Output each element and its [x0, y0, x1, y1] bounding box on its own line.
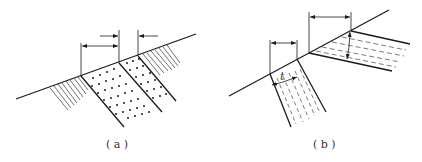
thickness-arrow-b2 [349, 32, 350, 47]
geology-outcrop-diagram: t ( a ) ( b ) [0, 0, 422, 162]
panel-a [16, 30, 196, 127]
panel-b: t [229, 10, 410, 127]
thickness-arrow-b1-right [283, 77, 297, 82]
stratum-b2-bottom [309, 53, 392, 71]
hatch-right-a [143, 45, 180, 75]
stratum-b2-top [351, 31, 410, 44]
stratum-boundary-a3 [138, 56, 176, 101]
hatch-left-a [50, 77, 88, 110]
stratum-boundary-a1 [81, 76, 124, 127]
dot-fill-a1 [91, 68, 150, 119]
thickness-label-b1: t [280, 70, 285, 83]
panel-label-b: ( b ) [313, 138, 336, 151]
panel-label-a: ( a ) [106, 138, 128, 151]
stratum-boundary-a2 [119, 63, 162, 112]
